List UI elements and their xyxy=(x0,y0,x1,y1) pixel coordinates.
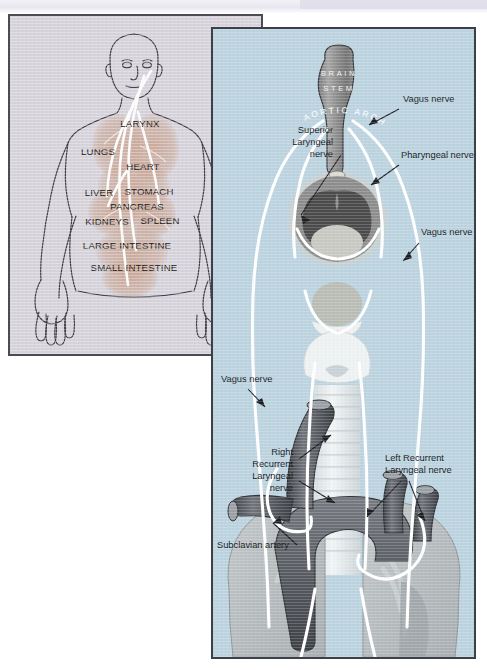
right-recurrent-line-4: nerve xyxy=(270,483,293,493)
callout-superior-laryngeal-nerve: Superior Laryngeal nerve xyxy=(292,125,333,159)
figure-page: LARYNX LUNGS HEART LIVER STOMACH PANCREA… xyxy=(0,0,487,670)
left-recurrent-line-1: Left Recurrent xyxy=(385,453,444,463)
organ-label-stomach: STOMACH xyxy=(124,186,173,197)
laryngeal-nerve-panel: BRAIN STEM xyxy=(211,27,476,659)
organ-label-liver: LIVER xyxy=(85,187,114,198)
organ-label-pancreas: PANCREAS xyxy=(110,201,164,212)
organ-label-heart: HEART xyxy=(126,161,159,172)
organ-label-larynx: LARYNX xyxy=(120,118,160,129)
right-recurrent-line-3: Laryngeal xyxy=(252,471,293,481)
brain-stem-label-line1: BRAIN xyxy=(321,69,357,78)
callout-subclavian-artery: Subclavian artery xyxy=(217,540,289,550)
scan-band-top-right xyxy=(300,0,487,9)
brain-stem-label-line2: STEM xyxy=(323,84,355,93)
organ-label-spleen: SPLEEN xyxy=(140,215,179,226)
callout-vagus-nerve-mid: Vagus nerve xyxy=(421,227,473,237)
superior-laryngeal-line-2: Laryngeal xyxy=(292,137,333,147)
callout-vagus-nerve-top: Vagus nerve xyxy=(403,94,455,104)
right-recurrent-line-1: Right xyxy=(271,447,293,457)
organ-label-large-intestine: LARGE INTESTINE xyxy=(83,240,171,251)
superior-laryngeal-line-1: Superior xyxy=(298,125,333,135)
supraglottic-structures xyxy=(312,282,362,337)
callout-pharyngeal-nerve: Pharyngeal nerve xyxy=(401,150,474,160)
right-recurrent-line-2: Recurrent xyxy=(252,459,293,469)
organ-label-kidneys: KIDNEYS xyxy=(85,216,129,227)
organ-label-lungs: LUNGS xyxy=(81,146,115,157)
callout-vagus-nerve-lower-left: Vagus nerve xyxy=(221,374,273,384)
superior-laryngeal-line-3: nerve xyxy=(310,149,333,159)
left-recurrent-line-2: Laryngeal nerve xyxy=(385,465,452,475)
callout-left-recurrent-laryngeal-nerve: Left Recurrent Laryngeal nerve xyxy=(385,453,452,475)
organ-label-small-intestine: SMALL INTESTINE xyxy=(91,262,178,273)
laryngeal-diagram-svg: BRAIN STEM xyxy=(213,29,474,657)
